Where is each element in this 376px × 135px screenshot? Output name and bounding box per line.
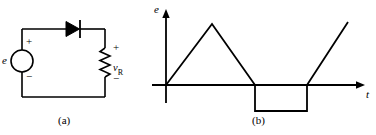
circuit-panel [11,20,110,97]
figure-svg [0,0,376,135]
x-axis-label: t [366,89,369,100]
x-axis-arrowhead-icon [356,81,365,88]
source-minus-sign: − [26,71,32,82]
resistor-plus-sign: + [113,42,119,53]
source-label: e [2,55,7,66]
waveform-trace [166,22,348,111]
panel-caption-b: (b) [252,115,265,126]
y-axis-label: e [154,4,159,15]
voltage-source-symbol [11,50,33,72]
figure-container: e + − + vR − e t (a) (b) [0,0,376,135]
y-axis-arrowhead-icon [162,9,169,18]
resistor-minus-sign: − [113,73,119,84]
resistor-zigzag-symbol [100,48,110,77]
waveform-panel [152,9,365,111]
diode-triangle-icon [66,22,80,37]
source-plus-sign: + [26,36,32,47]
panel-caption-a: (a) [58,115,70,126]
